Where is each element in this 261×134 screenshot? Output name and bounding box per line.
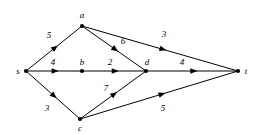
node-dot-b [80,69,84,73]
edge-weight-a-d: 6 [121,37,126,46]
arrowhead-d-t [190,68,197,74]
node-label-t: t [245,67,248,76]
arrowhead-a-t [159,46,167,51]
node-dot-a [80,24,84,28]
node-label-b: b [80,58,85,67]
edge-weight-a-t: 3 [162,30,167,39]
node-label-a: a [80,11,85,20]
arrowhead-s-b [52,68,59,74]
node-label-c: c [78,124,82,133]
arrowhead-c-d [110,92,117,98]
node-label-d: d [145,58,150,67]
edge-weight-s-c: 3 [45,104,50,113]
graph-figure: sabcdt 543632754 [0,0,261,134]
arrowhead-b-d [112,68,119,74]
edge-weight-c-t: 5 [161,104,166,113]
node-dot-t [236,69,240,73]
node-dot-d [144,69,148,73]
edge-weight-c-d: 7 [104,84,109,93]
edge-lines [26,26,238,119]
edge-weight-d-t: 4 [180,58,185,67]
graph-canvas [0,0,261,134]
edge-weight-s-a: 5 [47,31,52,40]
arrowhead-s-a [51,45,58,52]
arrowhead-c-t [158,92,166,97]
edge-weight-b-d: 2 [108,58,113,67]
arrowhead-a-d [111,45,118,51]
edge-weight-s-b: 4 [51,58,56,67]
node-label-s: s [16,67,20,76]
node-dot-c [78,117,82,121]
node-dots [24,24,240,121]
node-dot-s [24,69,28,73]
